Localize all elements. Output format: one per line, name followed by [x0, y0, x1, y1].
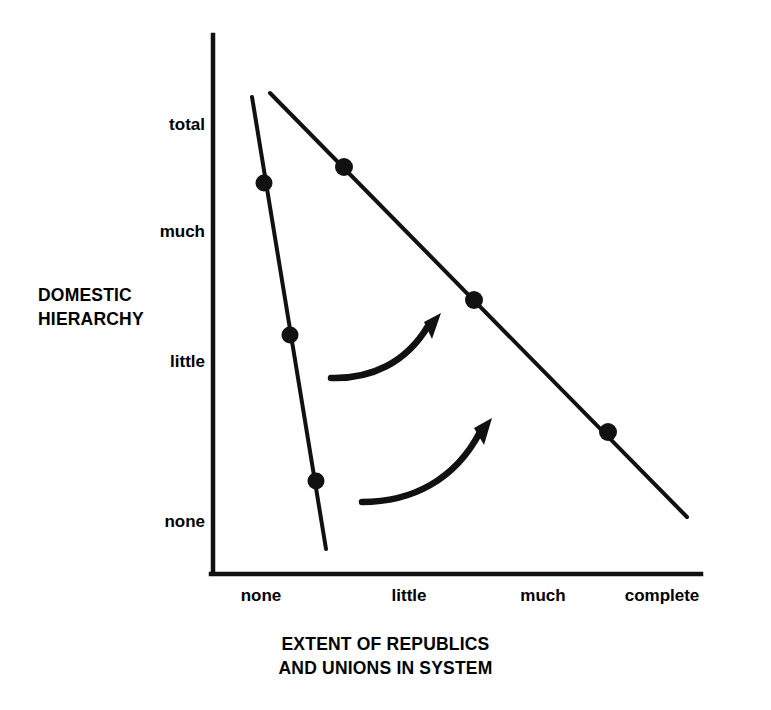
data-point [256, 175, 273, 192]
data-point [335, 158, 353, 176]
data-point [308, 473, 325, 490]
y-tick-label-total: total [120, 116, 205, 134]
x-tick-label-little: little [392, 587, 427, 605]
y-tick-label-much: much [120, 223, 205, 241]
y-axis-title: DOMESTIC HIERARCHY [38, 283, 144, 331]
x-axis-title-line-2: AND UNIONS IN SYSTEM [0, 656, 771, 680]
upper-transition-arrow-icon [331, 313, 441, 378]
chart-figure: total much little none none little much … [0, 0, 771, 710]
data-point [282, 327, 299, 344]
series-steep-line [252, 97, 326, 549]
data-point [465, 291, 483, 309]
y-axis-title-line-1: DOMESTIC [38, 283, 144, 307]
x-tick-label-complete: complete [625, 587, 700, 605]
y-tick-label-none: none [120, 513, 205, 531]
y-tick-label-little: little [120, 353, 205, 371]
y-axis-title-line-2: HIERARCHY [38, 307, 144, 331]
x-axis-title: EXTENT OF REPUBLICS AND UNIONS IN SYSTEM [0, 632, 771, 680]
data-point [599, 423, 617, 441]
lower-transition-arrow-icon [362, 418, 492, 502]
x-axis-title-line-1: EXTENT OF REPUBLICS [0, 632, 771, 656]
x-tick-label-none: none [241, 587, 282, 605]
series-shallow-line [270, 93, 687, 517]
x-tick-label-much: much [520, 587, 565, 605]
